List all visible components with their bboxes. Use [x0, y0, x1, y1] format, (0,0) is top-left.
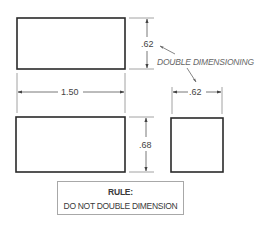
- double-dimensioning-callout: DOUBLE DIMENSIONING: [157, 57, 254, 67]
- callout-leader-lower: [187, 68, 196, 82]
- rule-title: RULE:: [58, 187, 183, 197]
- square: [171, 118, 223, 172]
- rule-box: RULE: DO NOT DOUBLE DIMENSION: [57, 181, 184, 215]
- rule-text: DO NOT DOUBLE DIMENSION: [58, 201, 183, 211]
- width-dimension: 1.50: [61, 87, 79, 97]
- callout-leader-upper: [160, 46, 175, 54]
- bottom-height-dimension: .68: [139, 140, 152, 150]
- top-rectangle: [17, 18, 125, 69]
- square-width-dimension: .62: [189, 87, 202, 97]
- top-height-dimension: .62: [141, 39, 154, 49]
- bottom-rectangle: [16, 117, 125, 172]
